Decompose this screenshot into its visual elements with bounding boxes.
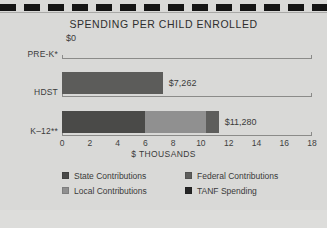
- x-tick-label: 10: [196, 138, 205, 148]
- category-baseline-cap: [311, 93, 312, 97]
- category-axis-labels: PRE-K*HDSTK–12**: [0, 38, 58, 136]
- bottom-margin-decoration: [0, 210, 327, 228]
- bar-segment[interactable]: [145, 111, 206, 133]
- x-axis-tick-labels: 024681012141618: [62, 136, 312, 150]
- bar-value-label: $7,262: [169, 72, 197, 94]
- bar-value-label: $11,280: [225, 111, 257, 133]
- x-tick-label: 12: [224, 138, 233, 148]
- bar-k-12[interactable]: [62, 111, 219, 133]
- legend-label: Federal Contributions: [197, 171, 278, 181]
- category-label: PRE-K*: [2, 49, 58, 59]
- x-tick-label: 8: [171, 138, 176, 148]
- rule-hairline-decoration: [0, 12, 327, 13]
- legend-swatch-icon: [62, 172, 69, 179]
- bar-hdst[interactable]: [62, 72, 163, 94]
- category-baseline: [62, 96, 312, 97]
- x-tick-label: 18: [307, 138, 316, 148]
- legend-swatch-icon: [185, 187, 192, 194]
- bar-value-label: $0: [66, 27, 76, 49]
- x-axis-title: $ THOUSANDS: [0, 149, 327, 159]
- x-tick-label: 0: [60, 138, 65, 148]
- plot-area: $0$7,262$11,280: [62, 38, 312, 136]
- category-label: HDST: [2, 87, 58, 97]
- legend-swatch-icon: [185, 172, 192, 179]
- category-baseline: [62, 58, 312, 59]
- category-baseline-cap: [62, 55, 63, 59]
- bar-segment[interactable]: [62, 111, 145, 133]
- chart-figure: SPENDING PER CHILD ENROLLED PRE-K*HDSTK–…: [0, 0, 327, 228]
- chart-title: SPENDING PER CHILD ENROLLED: [0, 18, 327, 30]
- legend-item[interactable]: Local Contributions: [62, 186, 185, 196]
- legend-label: State Contributions: [74, 171, 146, 181]
- x-tick-label: 6: [143, 138, 148, 148]
- x-tick-label: 4: [115, 138, 120, 148]
- bar-segment[interactable]: [62, 72, 163, 94]
- category-label: K–12**: [2, 126, 58, 136]
- category-baseline-cap: [311, 55, 312, 59]
- x-tick-label: 14: [252, 138, 261, 148]
- legend-item[interactable]: TANF Spending: [185, 186, 300, 196]
- bar-segment[interactable]: [206, 111, 218, 133]
- legend-item[interactable]: State Contributions: [62, 171, 185, 181]
- legend-item[interactable]: Federal Contributions: [185, 171, 300, 181]
- legend-label: Local Contributions: [74, 186, 147, 196]
- dashed-rule-decoration: [0, 4, 327, 11]
- x-tick-label: 2: [87, 138, 92, 148]
- chart-legend: State ContributionsFederal Contributions…: [62, 168, 292, 198]
- legend-label: TANF Spending: [197, 186, 257, 196]
- x-tick-label: 16: [279, 138, 288, 148]
- legend-swatch-icon: [62, 187, 69, 194]
